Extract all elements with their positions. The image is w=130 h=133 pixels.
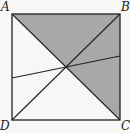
vertex-label-c: C <box>121 120 130 132</box>
vertex-label-a: A <box>1 1 10 13</box>
vertex-label-b: B <box>121 1 130 13</box>
square-diagram <box>0 0 130 133</box>
vertex-label-d: D <box>0 120 10 132</box>
geometry-figure: A B C D <box>0 0 130 133</box>
